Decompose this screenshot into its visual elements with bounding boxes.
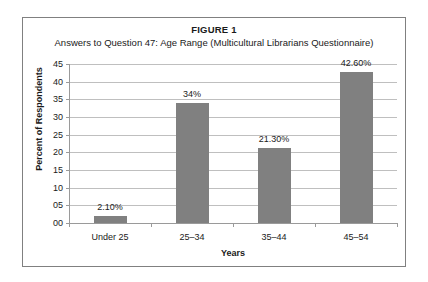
y-tick-label: 15 xyxy=(53,165,63,175)
x-tick-label: 35–44 xyxy=(261,232,286,242)
y-tick-label: 45 xyxy=(53,59,63,69)
y-tick-label: 10 xyxy=(53,183,63,193)
y-tick-mark xyxy=(66,188,70,189)
figure-subtitle: Answers to Question 47: Age Range (Multi… xyxy=(23,36,405,50)
y-tick-label: 05 xyxy=(53,200,63,210)
y-tick-mark xyxy=(66,117,70,118)
bar-data-label: 42.60% xyxy=(341,58,372,68)
x-tick-mark xyxy=(69,223,70,227)
bar-data-label: 2.10% xyxy=(97,202,123,212)
bar xyxy=(176,103,209,223)
y-tick-mark xyxy=(66,152,70,153)
y-axis-line xyxy=(69,64,70,223)
y-tick-mark xyxy=(66,99,70,100)
y-tick-label: 00 xyxy=(53,218,63,228)
x-tick-mark xyxy=(151,223,152,227)
x-tick-label: 25–34 xyxy=(179,232,204,242)
y-tick-mark xyxy=(66,135,70,136)
bar xyxy=(258,148,291,223)
bar-data-label: 34% xyxy=(183,89,201,99)
bar xyxy=(340,72,373,223)
plot-area: 00051015202530354045 2.10%34%21.30%42.60… xyxy=(69,64,397,223)
bar xyxy=(94,216,127,223)
y-tick-label: 25 xyxy=(53,130,63,140)
x-axis-title: Years xyxy=(69,248,397,258)
figure-frame: FIGURE 1 Answers to Question 47: Age Ran… xyxy=(22,17,406,267)
y-tick-label: 30 xyxy=(53,112,63,122)
x-tick-mark xyxy=(315,223,316,227)
bar-data-label: 21.30% xyxy=(259,134,290,144)
y-axis-title: Percent of Respondents xyxy=(34,59,44,179)
y-tick-label: 20 xyxy=(53,147,63,157)
x-tick-mark xyxy=(233,223,234,227)
x-tick-label: Under 25 xyxy=(91,232,128,242)
y-tick-label: 40 xyxy=(53,77,63,87)
x-tick-mark xyxy=(397,223,398,227)
figure-title-block: FIGURE 1 Answers to Question 47: Age Ran… xyxy=(23,23,405,50)
y-tick-label: 35 xyxy=(53,94,63,104)
x-tick-label: 45–54 xyxy=(343,232,368,242)
figure-number-label: FIGURE 1 xyxy=(23,23,405,36)
y-tick-mark xyxy=(66,82,70,83)
y-tick-mark xyxy=(66,64,70,65)
y-tick-mark xyxy=(66,205,70,206)
y-tick-mark xyxy=(66,170,70,171)
